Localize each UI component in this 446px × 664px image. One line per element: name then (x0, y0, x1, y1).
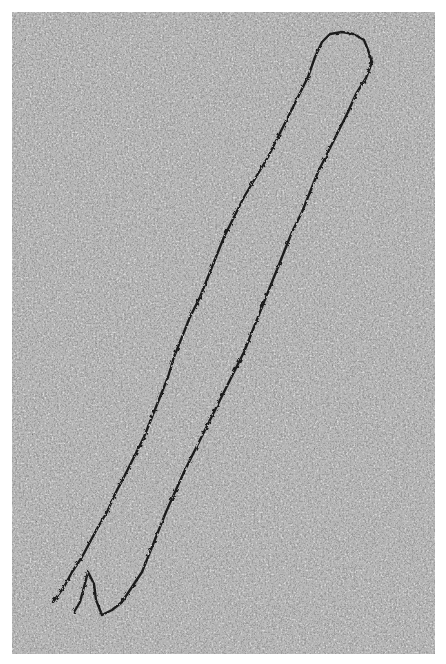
micrograph-image (12, 12, 435, 654)
micrograph-frame (12, 12, 435, 654)
grain-texture (12, 12, 435, 654)
